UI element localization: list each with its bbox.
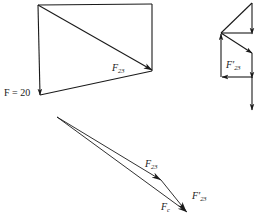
quad-bottom-edge <box>40 71 152 95</box>
label-f23-prime-bottom-sub: 23 <box>200 195 206 202</box>
label-fc-bottom-sub: c <box>167 206 170 213</box>
label-f23-prime-right-sub: 23 <box>234 64 240 71</box>
left-force-quadrilateral <box>38 4 152 95</box>
label-f23-left: F23 <box>112 58 124 75</box>
label-force-magnitude: F = 20 <box>4 88 30 98</box>
figure-canvas <box>0 0 260 219</box>
label-fc-bottom: Fc <box>161 197 170 214</box>
label-f23-prime-bottom: F′23 <box>192 186 206 203</box>
vector-F23-bottom <box>57 117 161 180</box>
label-f23-bottom-sub: 23 <box>151 163 157 170</box>
vector-F23-prime-right <box>221 33 252 53</box>
cluster-upper-slant <box>221 3 252 33</box>
vector-F23-left <box>38 5 152 70</box>
label-f23-bottom: F23 <box>145 154 157 171</box>
label-f23-left-sub: 23 <box>118 67 124 74</box>
label-f23-prime-right: F′23 <box>226 55 240 72</box>
vector-F-20 <box>38 5 40 95</box>
force-vector-figure: F = 20 F23 F′23 F23 Fc F′23 <box>0 0 260 219</box>
quad-top-edge <box>38 4 152 5</box>
